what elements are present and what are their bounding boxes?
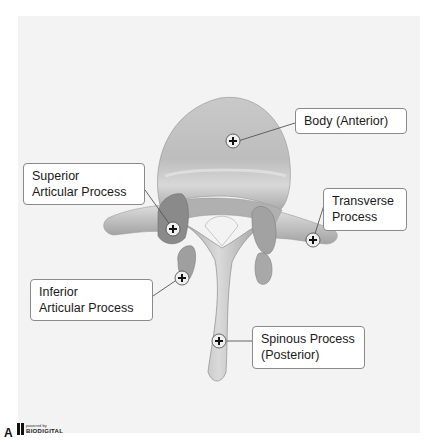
label-inferior-line-2: Articular Process (39, 300, 144, 316)
vertebral-body (158, 97, 291, 210)
label-spinous-line-2: (Posterior) (261, 347, 356, 363)
label-transverse-line-1: Transverse (332, 193, 398, 209)
marker-transverse[interactable] (306, 233, 320, 247)
figure-letter: A (4, 426, 13, 440)
biodigital-logo-icon (17, 423, 24, 435)
label-superior-articular-process: Superior Articular Process (23, 163, 145, 205)
label-spinous-process: Spinous Process (Posterior) (252, 326, 365, 369)
label-transverse-process: Transverse Process (323, 188, 407, 231)
label-body: Body (Anterior) (295, 108, 407, 134)
biodigital-logo: powered by BIODIGITAL (17, 423, 63, 435)
marker-spinous[interactable] (212, 334, 226, 348)
label-body-line-1: Body (Anterior) (304, 113, 398, 129)
label-superior-line-2: Articular Process (32, 184, 136, 200)
marker-body[interactable] (226, 134, 240, 148)
label-inferior-articular-process: Inferior Articular Process (30, 279, 153, 321)
label-transverse-line-2: Process (332, 209, 398, 225)
marker-inferior-articular[interactable] (175, 271, 189, 285)
label-superior-line-1: Superior (32, 168, 136, 184)
right-inferior-articular-process (255, 253, 272, 285)
marker-superior-articular[interactable] (166, 222, 180, 236)
label-inferior-line-1: Inferior (39, 284, 144, 300)
label-spinous-line-1: Spinous Process (261, 331, 356, 347)
logo-brand: BIODIGITAL (26, 428, 63, 435)
